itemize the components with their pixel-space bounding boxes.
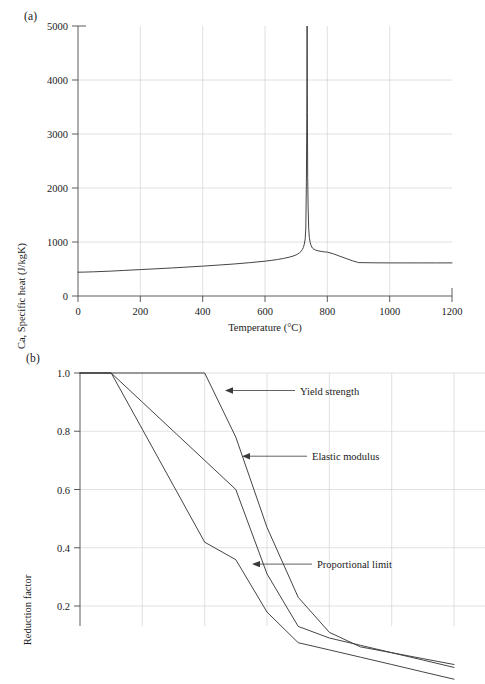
panel-b-y-ticks <box>74 373 80 606</box>
panel-a-ytick-4000: 4000 <box>32 75 68 86</box>
elastic-modulus-annotation-leader <box>242 453 307 459</box>
panel-b-ytick-04: 0.4 <box>38 542 70 553</box>
panel-a-ytick-2000: 2000 <box>32 183 68 194</box>
panel-a-xtick-800: 800 <box>319 306 335 317</box>
panel-a-x-ticks <box>78 296 452 302</box>
panel-a-xtick-600: 600 <box>257 306 273 317</box>
panel-a-specific-heat: (a) <box>0 0 485 340</box>
panel-a-x-axis-title: Temperature (°C) <box>228 322 302 333</box>
panel-a-vertical-gridlines <box>140 26 389 296</box>
annotation-yield-strength: Yield strength <box>300 385 359 396</box>
panel-b-y-axis-title: Reduction factor <box>22 490 33 684</box>
panel-b-reduction-factors: (b) <box>0 340 485 626</box>
panel-a-xtick-1000: 1000 <box>379 306 400 317</box>
panel-b-horizontal-gridlines <box>80 373 485 606</box>
panel-b-ytick-08: 0.8 <box>38 426 70 437</box>
panel-b-ytick-10: 1.0 <box>38 368 70 379</box>
panel-a-y-ticks <box>72 26 78 296</box>
annotation-elastic-modulus: Elastic modulus <box>312 451 379 462</box>
panel-a-ytick-5000: 5000 <box>32 21 68 32</box>
panel-a-ytick-0: 0 <box>38 291 68 302</box>
panel-b-ytick-06: 0.6 <box>38 484 70 495</box>
panel-a-ytick-3000: 3000 <box>32 129 68 140</box>
panel-a-xtick-200: 200 <box>132 306 148 317</box>
annotation-proportional-limit: Proportional limit <box>317 559 392 570</box>
panel-b-ytick-02: 0.2 <box>38 601 70 612</box>
panel-a-xtick-400: 400 <box>195 306 211 317</box>
panel-b-plot <box>0 340 485 626</box>
panel-b-vertical-gridlines <box>142 373 454 626</box>
panel-a-ytick-1000: 1000 <box>32 237 68 248</box>
yield-strength-annotation-leader <box>225 387 295 393</box>
panel-a-xtick-0: 0 <box>75 306 80 317</box>
panel-a-plot <box>0 0 485 340</box>
panel-a-xtick-1200: 1200 <box>442 306 463 317</box>
